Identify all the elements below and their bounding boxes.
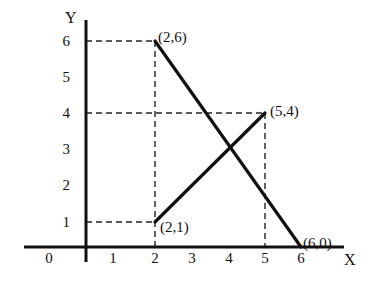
segment-2-1-to-5-4 [155,113,265,222]
coordinate-plane-figure: Y X 0 1 2 3 4 5 6 6 5 4 3 2 1 (2,6) (5,4… [0,0,370,283]
data-segments [155,41,301,247]
y-tick-label-5: 5 [50,70,70,85]
y-tick-label-4: 4 [50,106,70,121]
point-label-2-1: (2,1) [160,220,189,235]
y-tick-label-3: 3 [50,142,70,157]
y-tick-label-6: 6 [50,34,70,49]
y-tick-label-1: 1 [50,215,70,230]
x-tick-label-2: 2 [145,251,165,266]
x-tick-label-1: 1 [103,251,123,266]
x-tick-label-0: 0 [39,251,59,266]
point-label-6-0: (6,0) [303,236,332,251]
x-tick-label-5: 5 [255,251,275,266]
x-axis-label: X [344,252,356,268]
x-tick-label-4: 4 [219,251,239,266]
point-label-5-4: (5,4) [270,104,299,119]
x-tick-label-3: 3 [182,251,202,266]
segment-2-6-to-6-0 [155,41,301,247]
x-tick-label-6: 6 [291,251,311,266]
point-label-2-6: (2,6) [158,30,187,45]
y-tick-label-2: 2 [50,178,70,193]
y-axis-label: Y [65,10,77,26]
